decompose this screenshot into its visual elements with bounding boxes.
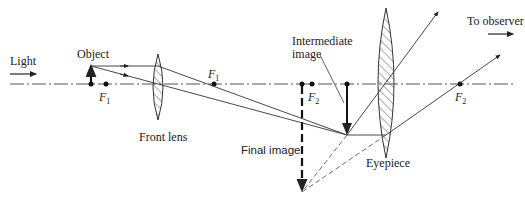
object-base-dot bbox=[89, 82, 94, 87]
final-image-base-dot bbox=[300, 82, 305, 87]
microscope-diagram: Light Object Front lens Intermediate ima… bbox=[0, 0, 525, 208]
label-intermediate-2: image bbox=[292, 47, 321, 61]
virtual-ray-1 bbox=[302, 135, 347, 192]
label-eyepiece: Eyepiece bbox=[366, 156, 410, 170]
label-f1-left: F1 bbox=[98, 90, 110, 106]
label-front-lens: Front lens bbox=[139, 130, 188, 144]
f1-left-dot bbox=[104, 82, 109, 87]
label-intermediate-1: Intermediate bbox=[292, 34, 353, 48]
front-lens bbox=[153, 54, 163, 120]
label-final-image: Final image bbox=[241, 144, 300, 156]
label-f1-right: F1 bbox=[207, 67, 219, 83]
label-object: Object bbox=[77, 47, 110, 61]
f2-left-dot bbox=[310, 82, 315, 87]
label-to-observer: To observer bbox=[467, 14, 524, 28]
ray-central bbox=[158, 84, 347, 135]
intermediate-image-leader bbox=[320, 55, 344, 103]
label-f2-left: F2 bbox=[307, 90, 319, 106]
ray-eyepiece-out-lower bbox=[386, 55, 500, 135]
ray-arrow-icon bbox=[120, 74, 128, 76]
label-f2-right: F2 bbox=[454, 90, 466, 106]
label-light: Light bbox=[10, 54, 37, 68]
